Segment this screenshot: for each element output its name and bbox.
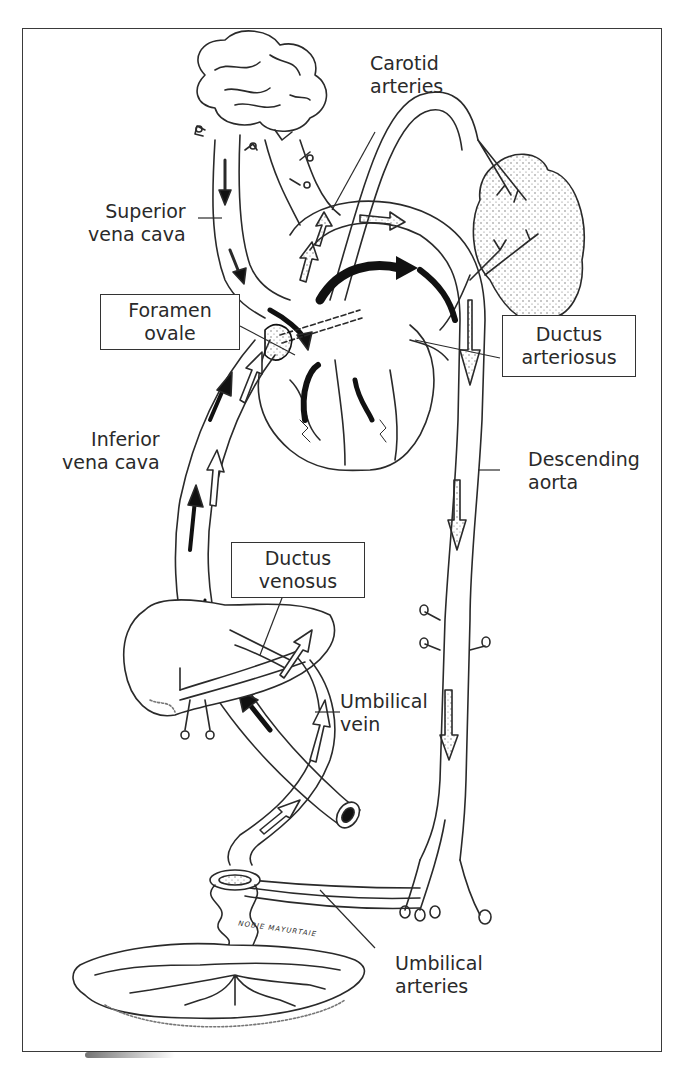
label-inferior-vena-cava: Inferior vena cava [62, 428, 160, 474]
label-carotid-arteries: Carotid arteries [370, 52, 443, 98]
label-umbilical-arteries: Umbilical arteries [395, 952, 483, 998]
label-superior-vena-cava: Superior vena cava [88, 200, 186, 246]
label-foramen-ovale: Foramen ovale [100, 294, 240, 350]
brain-icon [197, 31, 326, 140]
label-descending-aorta: Descending aorta [528, 448, 640, 494]
label-umbilical-vein: Umbilical vein [340, 690, 428, 736]
label-ductus-venosus: Ductus venosus [231, 542, 365, 598]
label-ductus-arteriosus: Ductus arteriosus [502, 315, 636, 377]
fetal-circulation-illustration [0, 0, 678, 1072]
